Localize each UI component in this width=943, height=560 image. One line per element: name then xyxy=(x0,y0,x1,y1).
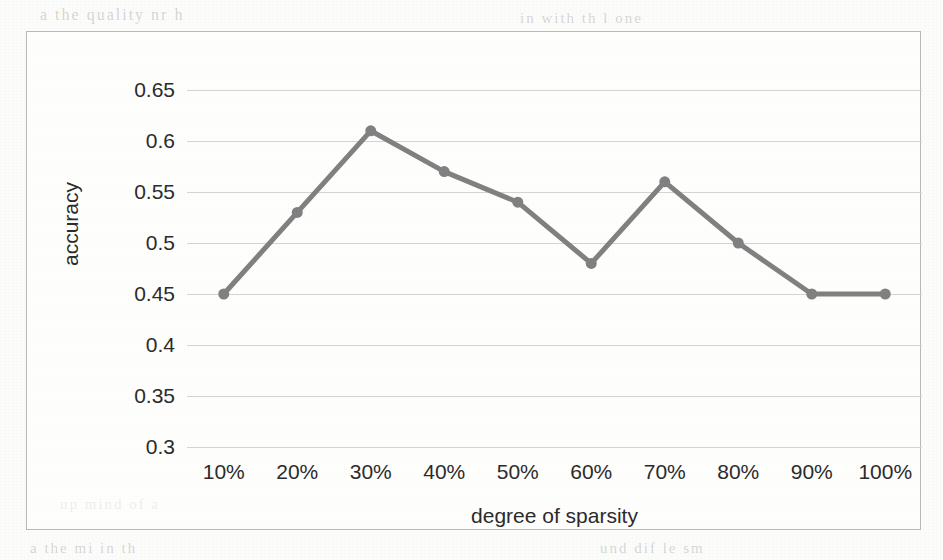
chart-frame: accuracy 0.650.60.550.50.450.40.350.3 10… xyxy=(26,31,921,530)
x-axis-tick-labels: 10%20%30%40%50%60%70%80%90%100% xyxy=(187,460,922,490)
series-line xyxy=(224,131,886,294)
y-axis-tick-label: 0.45 xyxy=(55,282,175,306)
y-axis-tick-label: 0.55 xyxy=(55,180,175,204)
x-axis-tick-label: 20% xyxy=(276,460,318,484)
data-point-marker xyxy=(218,289,229,300)
ghost-text-line: und dif le sm xyxy=(600,540,705,557)
data-point-marker xyxy=(880,289,891,300)
gridline xyxy=(187,447,922,448)
y-axis-tick-label: 0.35 xyxy=(55,384,175,408)
data-point-marker xyxy=(659,176,670,187)
x-axis-tick-label: 60% xyxy=(570,460,612,484)
y-axis-tick-label: 0.5 xyxy=(55,231,175,255)
data-point-marker xyxy=(439,166,450,177)
data-point-marker xyxy=(806,289,817,300)
data-point-marker xyxy=(586,258,597,269)
line-series xyxy=(187,90,922,447)
x-axis-tick-label: 70% xyxy=(644,460,686,484)
x-axis-title: degree of sparsity xyxy=(187,504,922,528)
data-point-marker xyxy=(512,197,523,208)
x-axis-tick-label: 80% xyxy=(717,460,759,484)
y-axis-tick-label: 0.65 xyxy=(55,78,175,102)
x-axis-tick-label: 40% xyxy=(423,460,465,484)
y-axis-tick-label: 0.4 xyxy=(55,333,175,357)
data-point-marker xyxy=(292,207,303,218)
x-axis-tick-label: 100% xyxy=(858,460,912,484)
y-axis-tick-label: 0.6 xyxy=(55,129,175,153)
plot-area xyxy=(187,90,922,447)
data-point-marker xyxy=(365,125,376,136)
y-axis-tick-label: 0.3 xyxy=(55,435,175,459)
x-axis-tick-label: 30% xyxy=(350,460,392,484)
x-axis-tick-label: 50% xyxy=(497,460,539,484)
data-point-marker xyxy=(733,238,744,249)
x-axis-tick-label: 10% xyxy=(203,460,245,484)
ghost-text-line: a the mi in th xyxy=(30,540,137,557)
ghost-text-line: in with th l one xyxy=(520,10,643,27)
ghost-text-line: a the quality nr h xyxy=(40,6,184,24)
x-axis-tick-label: 90% xyxy=(791,460,833,484)
y-axis-tick-labels: 0.650.60.550.50.450.40.350.3 xyxy=(47,90,175,447)
